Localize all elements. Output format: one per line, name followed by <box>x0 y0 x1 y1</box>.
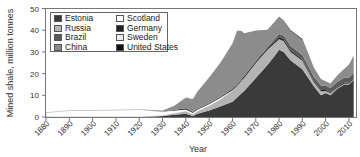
y-tick-label: 20 <box>30 70 39 79</box>
legend-label: Scotland <box>127 14 160 23</box>
y-axis-title: Mined shale, million tonnes <box>5 8 15 117</box>
legend-label: United States <box>127 43 178 52</box>
x-tick-label: 1970 <box>242 119 261 138</box>
x-tick-label: 1940 <box>172 119 191 138</box>
x-tick-label: 1920 <box>126 119 145 138</box>
legend-label: Estonia <box>65 14 93 23</box>
x-axis: 1880189019001910192019301940195019601970… <box>32 117 354 138</box>
legend-label: China <box>65 43 87 52</box>
legend: EstoniaScotlandRussiaGermanyBrazilSweden… <box>50 12 168 52</box>
x-tick-label: 1900 <box>79 119 98 138</box>
x-axis-title: Year <box>189 144 207 154</box>
y-axis: 01020304050 <box>30 5 46 123</box>
legend-swatch-icon <box>54 34 62 41</box>
x-tick-label: 2000 <box>312 119 331 138</box>
legend-swatch-icon <box>54 44 62 51</box>
x-tick-label: 1890 <box>56 119 75 138</box>
legend-swatch-icon <box>116 15 124 22</box>
legend-item-united-states: United States <box>116 43 174 53</box>
legend-swatch-icon <box>54 25 62 32</box>
x-tick-label: 1960 <box>219 119 238 138</box>
x-tick-label: 1910 <box>102 119 121 138</box>
legend-label: Brazil <box>65 33 86 42</box>
y-tick-label: 10 <box>30 91 39 100</box>
y-tick-label: 40 <box>30 26 39 35</box>
legend-swatch-icon <box>116 44 124 51</box>
y-tick-label: 30 <box>30 48 39 57</box>
y-tick-label: 50 <box>30 5 39 14</box>
x-tick-label: 1990 <box>289 119 308 138</box>
x-tick-label: 2010 <box>335 119 354 138</box>
legend-label: Sweden <box>127 33 158 42</box>
legend-swatch-icon <box>116 25 124 32</box>
x-tick-label: 1930 <box>149 119 168 138</box>
legend-item-china: China <box>54 43 116 53</box>
x-tick-label: 1980 <box>266 119 285 138</box>
y-tick-label: 0 <box>35 113 40 122</box>
x-tick-label: 1950 <box>196 119 215 138</box>
legend-swatch-icon <box>116 34 124 41</box>
legend-swatch-icon <box>54 15 62 22</box>
